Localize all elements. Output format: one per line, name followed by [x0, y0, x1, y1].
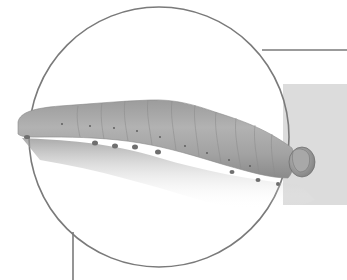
illustration-graphic — [0, 0, 347, 280]
caterpillar-illustration — [0, 0, 347, 280]
